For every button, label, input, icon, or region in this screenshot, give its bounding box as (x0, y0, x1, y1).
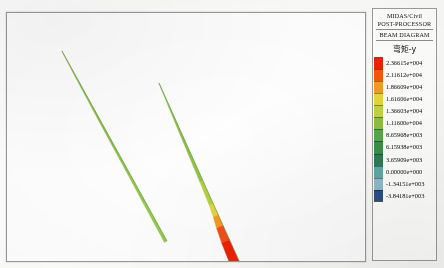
beams-layer (62, 51, 239, 261)
diagram-type-label: BEAM DIAGRAM (373, 31, 436, 39)
color-scale-row: -1.34151e+003 (373, 178, 436, 190)
color-scale-value-label: 0.00000e+000 (386, 166, 422, 178)
moment-band-segment (168, 104, 179, 128)
color-scale-value-label: 2.36615e+004 (386, 57, 422, 69)
moment-band-segment (97, 118, 114, 147)
color-scale-value-label: -3.84181e+003 (386, 190, 424, 202)
beam-centerline (159, 83, 239, 261)
moment-band-segment (200, 181, 214, 206)
moment-band-segment (128, 175, 146, 205)
color-scale-value-label: 2.11612e+004 (386, 69, 422, 81)
moment-band-segment (222, 240, 239, 261)
color-swatch (374, 57, 383, 69)
beam-member (62, 51, 167, 242)
color-swatch (374, 154, 383, 166)
color-scale-value-label: 1.36603e+004 (386, 105, 422, 117)
color-scale-value-label: 8.65968e+003 (386, 129, 422, 141)
beam-diagram-plot-frame (6, 12, 366, 262)
color-swatch (374, 93, 383, 105)
color-scale-row: 1.61606e+004 (373, 93, 436, 105)
legend-header: MIDAS/Civil POST-PROCESSOR BEAM DIAGRAM (373, 9, 436, 41)
color-scale-row: 2.11612e+004 (373, 69, 436, 81)
color-scale-row: 1.36603e+004 (373, 105, 436, 117)
color-scale-value-label: 3.65909e+003 (386, 154, 422, 166)
color-swatch (374, 141, 383, 153)
color-scale-row: 2.36615e+004 (373, 57, 436, 69)
color-scale-value-label: -1.34151e+003 (386, 178, 424, 190)
moment-band-segment (144, 203, 167, 242)
color-swatch (374, 117, 383, 129)
color-scale-row: 8.65968e+003 (373, 129, 436, 141)
quantity-label: 弯矩-y (373, 43, 436, 56)
color-swatch (374, 166, 383, 178)
moment-band-segment (177, 128, 191, 156)
color-scale-row: 1.11600e+004 (373, 117, 436, 129)
color-swatch (374, 190, 383, 202)
color-scale-value-label: 1.61606e+004 (386, 93, 422, 105)
color-swatch (374, 69, 383, 81)
color-scale-list: 2.36615e+0042.11612e+0041.86609e+0041.61… (373, 57, 436, 202)
color-scale-row: 0.00000e+000 (373, 166, 436, 178)
color-scale-value-label: 6.15938e+003 (386, 141, 422, 153)
moment-band-segment (82, 89, 99, 118)
color-scale-row: 1.86609e+004 (373, 81, 436, 93)
color-scale-value-label: 1.11600e+004 (386, 117, 422, 129)
color-swatch (374, 178, 383, 190)
moment-band-segment (113, 146, 130, 176)
color-scale-row: 6.15938e+003 (373, 141, 436, 153)
beam-diagram-canvas (7, 13, 365, 261)
color-scale-row: -3.84181e+003 (373, 190, 436, 202)
moment-band-segment (189, 154, 203, 182)
color-swatch (374, 105, 383, 117)
color-swatch (374, 129, 383, 141)
moment-band-segment (209, 204, 218, 217)
program-name-label: MIDAS/Civil (373, 12, 436, 20)
legend-panel: MIDAS/Civil POST-PROCESSOR BEAM DIAGRAM … (372, 8, 437, 261)
beam-centerline (62, 51, 167, 241)
beam-member (159, 83, 239, 261)
module-name-label: POST-PROCESSOR (373, 20, 436, 28)
color-swatch (374, 81, 383, 93)
legend-divider-2 (376, 40, 433, 41)
color-scale-row: 3.65909e+003 (373, 154, 436, 166)
color-scale-value-label: 1.86609e+004 (386, 81, 422, 93)
legend-divider-1 (376, 29, 433, 30)
